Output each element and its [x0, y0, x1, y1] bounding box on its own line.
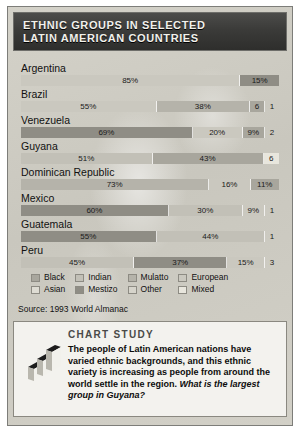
bar-segment-mestizo: 55% [21, 231, 157, 242]
stacked-bar: 60%30%9%1 [21, 205, 279, 216]
chart-legend: BlackAsianIndianMestizoMulattoOtherEurop… [21, 272, 279, 296]
bar-segment-mixed: 6 [264, 153, 279, 164]
country-label: Mexico [21, 192, 279, 204]
legend-item-indian: Indian [75, 272, 117, 283]
stacked-bar: 55%44%1 [21, 231, 279, 242]
chart-row: Venezuela69%20%9%2 [21, 114, 279, 138]
bar-segment-european: 15% [227, 257, 265, 268]
bar-segment-indian: 30% [169, 205, 243, 216]
legend-label: Mixed [191, 285, 214, 294]
legend-label: European [191, 273, 228, 282]
chart-title-bar: ETHNIC GROUPS IN SELECTED LATIN AMERICAN… [13, 12, 287, 51]
chart-study-body: CHART STUDY The people of Latin American… [66, 329, 278, 408]
bar-segment-black: 43% [153, 153, 264, 164]
bar-segment-mestizo: 69% [21, 127, 193, 138]
country-label: Guyana [21, 140, 279, 152]
chart-study-panel: CHART STUDY The people of Latin American… [13, 321, 287, 417]
country-label: Dominican Republic [21, 166, 279, 178]
legend-swatch-mixed [178, 286, 187, 294]
bar-segment-black: 11% [251, 179, 279, 190]
country-label: Peru [21, 244, 279, 256]
bar-segment-black: 6 [250, 101, 265, 112]
bar-segment-other: 3 [265, 257, 279, 268]
legend-item-european: European [178, 272, 228, 283]
legend-label: Mulatto [141, 273, 169, 282]
legend-swatch-black [31, 274, 40, 282]
chart-title-line-2: LATIN AMERICAN COUNTRIES [23, 32, 277, 45]
legend-label: Mestizo [88, 285, 117, 294]
stacked-bar: 73%16%11% [21, 179, 279, 190]
chart-rows: Argentina85%15%Brazil55%38%61Venezuela69… [21, 62, 279, 268]
bar-segment-mestizo: 60% [21, 205, 169, 216]
legend-item-mixed: Mixed [178, 284, 228, 295]
stacked-bar: 69%20%9%2 [21, 127, 279, 138]
bar-segment-mestizo: 15% [240, 75, 279, 86]
stacked-bar: 55%38%61 [21, 101, 279, 112]
bar-segment-mulatto: 73% [21, 179, 209, 190]
bar-chart-3d-icon [22, 329, 66, 408]
legend-label: Indian [88, 273, 111, 282]
legend-item-black: Black [31, 272, 65, 283]
legend-item-mulatto: Mulatto [128, 272, 169, 283]
legend-item-asian: Asian [31, 284, 65, 295]
bar-segment-european: 20% [193, 127, 243, 138]
legend-column: IndianMestizo [75, 272, 117, 296]
chart-row: Brazil55%38%61 [21, 88, 279, 112]
stacked-bar-chart: Argentina85%15%Brazil55%38%61Venezuela69… [13, 56, 287, 300]
bar-segment-european: 16% [209, 179, 250, 190]
bar-segment-other: 1 [265, 205, 279, 216]
country-label: Brazil [21, 88, 279, 100]
bar-segment-mestizo: 37% [134, 257, 227, 268]
bar-segment-european: 9% [243, 205, 265, 216]
legend-label: Other [141, 285, 162, 294]
legend-swatch-european [178, 274, 187, 282]
country-label: Guatemala [21, 218, 279, 230]
legend-swatch-mestizo [75, 286, 84, 294]
bar-segment-indian: 51% [21, 153, 153, 164]
chart-row: Argentina85%15% [21, 62, 279, 86]
chart-row: Guatemala55%44%1 [21, 218, 279, 242]
chart-card: ETHNIC GROUPS IN SELECTED LATIN AMERICAN… [7, 6, 293, 426]
country-label: Venezuela [21, 114, 279, 126]
legend-label: Black [44, 273, 65, 282]
chart-study-text: The people of Latin American nations hav… [68, 344, 278, 402]
legend-column: MulattoOther [128, 272, 169, 296]
bar-segment-other: 1 [265, 231, 279, 242]
bar-segment-indian: 45% [21, 257, 134, 268]
legend-column: EuropeanMixed [178, 272, 228, 296]
chart-study-heading: CHART STUDY [68, 329, 278, 340]
country-label: Argentina [21, 62, 279, 74]
stacked-bar: 85%15% [21, 75, 279, 86]
bar-segment-black: 9% [243, 127, 265, 138]
legend-swatch-asian [31, 286, 40, 294]
stacked-bar: 45%37%15%3 [21, 257, 279, 268]
chart-row: Peru45%37%15%3 [21, 244, 279, 268]
legend-label: Asian [44, 285, 65, 294]
bar-segment-european: 55% [21, 101, 157, 112]
chart-row: Guyana51%43%6 [21, 140, 279, 164]
page-root: ETHNIC GROUPS IN SELECTED LATIN AMERICAN… [0, 0, 300, 432]
legend-swatch-indian [75, 274, 84, 282]
bar-segment-mulatto: 38% [157, 101, 251, 112]
bar-segment-european: 85% [21, 75, 240, 86]
stacked-bar: 51%43%6 [21, 153, 279, 164]
bar-segment-other: 1 [265, 101, 279, 112]
chart-row: Dominican Republic73%16%11% [21, 166, 279, 190]
legend-swatch-other [128, 286, 137, 294]
legend-swatch-mulatto [128, 274, 137, 282]
source-note: Source: 1993 World Almanac [18, 304, 287, 314]
legend-item-mestizo: Mestizo [75, 284, 117, 295]
legend-column: BlackAsian [31, 272, 65, 296]
chart-title-line-1: ETHNIC GROUPS IN SELECTED [23, 19, 277, 32]
chart-row: Mexico60%30%9%1 [21, 192, 279, 216]
bar-segment-indian: 44% [157, 231, 265, 242]
bar-segment-indian: 2 [265, 127, 279, 138]
legend-item-other: Other [128, 284, 169, 295]
